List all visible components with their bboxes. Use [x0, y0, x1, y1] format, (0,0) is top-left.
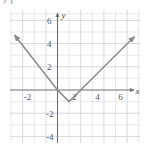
y-tick-label: -2 — [46, 109, 54, 119]
figure-number-label: 2.1 — [2, 0, 14, 4]
graph-figure: 2.1 — [0, 0, 146, 148]
y-tick-label: -4 — [46, 132, 54, 142]
grid-horizontal-lines — [10, 14, 140, 137]
x-tick-label: -2 — [24, 92, 32, 102]
x-tick-label: 2 — [72, 92, 77, 102]
y-tick-label: 6 — [47, 16, 52, 26]
x-axis-label: x — [135, 86, 140, 96]
x-tick-label: 4 — [95, 92, 100, 102]
y-axis-tick-labels: 6 4 2 -2 -4 — [46, 16, 54, 142]
coordinate-plane-svg: -2 2 4 6 6 4 2 -2 -4 y x — [0, 0, 146, 148]
y-axis-label: y — [61, 10, 66, 20]
y-tick-label: 4 — [47, 39, 52, 49]
y-tick-label: 2 — [47, 62, 52, 72]
x-axis-tick-labels: -2 2 4 6 — [24, 92, 124, 102]
grid-vertical-lines — [11, 10, 139, 143]
x-tick-label: 6 — [118, 92, 123, 102]
